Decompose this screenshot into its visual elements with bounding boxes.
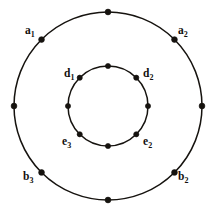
vertex-label-a2-subscript: 2 [184,30,188,39]
vertex-label-b3: b3 [23,171,33,183]
inner-vertex-45deg [134,75,139,80]
vertex-label-a1: a1 [25,25,35,37]
outer-vertex-315deg [172,170,178,176]
vertex-label-a2-base: a [178,24,184,36]
outer-vertex-0deg [199,103,205,109]
vertex-label-b2: b2 [178,171,188,183]
vertex-label-b3-subscript: 3 [29,176,33,185]
vertex-label-d1-subscript: 1 [70,73,74,82]
inner-vertex-135deg [77,75,82,80]
vertex-label-a1-subscript: 1 [31,30,35,39]
inner-vertex-180deg [65,103,70,108]
outer-vertex-180deg [11,103,17,109]
vertex-label-e2: e2 [143,136,152,148]
vertex-label-e3: e3 [62,136,71,148]
inner-circle-vertices [65,63,150,148]
vertex-label-a2: a2 [178,25,188,37]
vertex-label-b2-subscript: 2 [184,176,188,185]
vertex-label-d2: d2 [143,68,153,80]
outer-vertex-45deg [172,37,178,43]
outer-vertex-225deg [39,170,45,176]
outer-vertex-90deg [105,9,111,15]
vertex-label-e3-subscript: 3 [67,141,71,150]
inner-vertex-315deg [134,132,139,137]
vertex-label-e2-subscript: 2 [148,141,152,150]
outer-vertex-270deg [105,197,111,203]
inner-vertex-90deg [105,63,110,68]
vertex-label-d1: d1 [64,68,74,80]
circle-diagram-figure: a1a2d1d2e3e2b3b2 [0,0,216,215]
outer-circle-vertices [11,9,205,203]
outer-circle-group [11,9,205,203]
inner-vertex-270deg [105,143,110,148]
inner-vertex-225deg [77,132,82,137]
vertex-label-a1-base: a [25,24,31,36]
inner-circle-group [65,63,150,148]
vertex-label-d2-subscript: 2 [149,73,153,82]
outer-vertex-135deg [39,37,45,43]
inner-vertex-0deg [145,103,150,108]
